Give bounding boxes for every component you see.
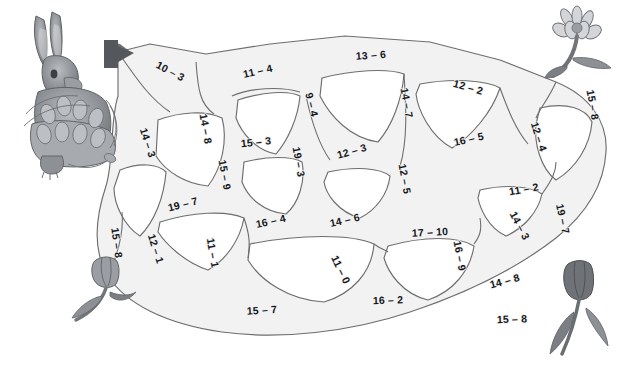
maze-equation-label[interactable]: 13 – 6	[355, 48, 386, 62]
flower-bloom-illustration	[545, 6, 611, 78]
maze-equation-label[interactable]: 16 – 2	[373, 293, 404, 306]
worksheet-canvas: 10 – 311 – 413 – 612 – 215 – 814 – 314 –…	[0, 0, 630, 375]
maze-equation-label[interactable]: 17 – 10	[411, 225, 448, 239]
rabbit-with-tulip-basket-illustration	[24, 12, 117, 180]
maze-equation-label[interactable]: 15 – 7	[246, 303, 277, 317]
maze-equation-label[interactable]: 15 – 8	[497, 312, 528, 325]
tulip-flower-illustration-right	[550, 261, 608, 354]
maze-graphic: 10 – 311 – 413 – 612 – 215 – 814 – 314 –…	[0, 0, 630, 375]
